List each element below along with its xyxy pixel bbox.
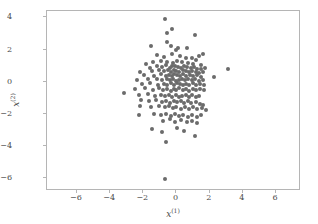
data-point bbox=[175, 126, 179, 130]
x-tick-label: 6 bbox=[273, 193, 278, 202]
data-point bbox=[157, 86, 161, 90]
data-point bbox=[151, 88, 155, 92]
y-tick-mark bbox=[43, 81, 46, 82]
data-point bbox=[201, 52, 205, 56]
data-point bbox=[186, 115, 190, 119]
data-point bbox=[148, 81, 152, 85]
data-point bbox=[185, 120, 189, 124]
y-axis-label-superscript: (2) bbox=[9, 93, 16, 102]
scatter-plot-figure: −6−4−20246−6−4−2024 x(1) x(2) bbox=[0, 0, 318, 224]
data-point bbox=[199, 113, 203, 117]
data-point bbox=[195, 107, 199, 111]
data-point bbox=[201, 78, 205, 82]
data-point bbox=[194, 58, 198, 62]
data-point bbox=[197, 54, 201, 58]
data-point bbox=[122, 91, 126, 95]
data-point bbox=[144, 62, 148, 66]
data-point bbox=[197, 94, 201, 98]
data-point bbox=[159, 113, 163, 117]
data-point bbox=[137, 93, 141, 97]
data-point bbox=[202, 83, 206, 87]
data-point bbox=[179, 107, 183, 111]
data-point bbox=[162, 55, 166, 59]
data-point bbox=[179, 118, 183, 122]
data-point bbox=[143, 86, 147, 90]
data-point bbox=[204, 108, 208, 112]
data-point bbox=[169, 44, 173, 48]
data-point bbox=[154, 98, 158, 102]
data-point bbox=[146, 92, 150, 96]
y-tick-label: 0 bbox=[7, 76, 12, 85]
y-tick-mark bbox=[43, 16, 46, 17]
data-point bbox=[193, 134, 197, 138]
data-point bbox=[194, 100, 198, 104]
data-point bbox=[160, 130, 164, 134]
data-point bbox=[163, 17, 167, 21]
x-tick-label: 2 bbox=[206, 193, 211, 202]
data-point bbox=[155, 77, 159, 81]
data-point bbox=[142, 73, 146, 77]
data-point bbox=[155, 53, 159, 57]
data-point bbox=[190, 119, 194, 123]
data-point bbox=[135, 78, 139, 82]
data-point bbox=[201, 70, 205, 74]
x-axis-label-superscript: (1) bbox=[171, 207, 180, 214]
y-axis-label: x(2) bbox=[9, 93, 21, 107]
data-point bbox=[174, 105, 178, 109]
x-tick-label: −2 bbox=[136, 193, 148, 202]
data-point bbox=[195, 121, 199, 125]
data-point bbox=[138, 104, 142, 108]
data-point bbox=[133, 87, 137, 91]
y-tick-label: 2 bbox=[7, 44, 12, 53]
data-point bbox=[202, 88, 206, 92]
data-point bbox=[157, 104, 161, 108]
data-point bbox=[165, 40, 169, 44]
data-point bbox=[151, 60, 155, 64]
data-point bbox=[184, 56, 188, 60]
data-point bbox=[173, 120, 177, 124]
data-point bbox=[226, 67, 230, 71]
data-point bbox=[168, 117, 172, 121]
x-tick-label: 4 bbox=[239, 193, 244, 202]
y-tick-label: −4 bbox=[0, 141, 12, 150]
y-tick-mark bbox=[43, 177, 46, 178]
data-point bbox=[182, 129, 186, 133]
data-point bbox=[161, 119, 165, 123]
y-tick-mark bbox=[43, 113, 46, 114]
data-point bbox=[190, 113, 194, 117]
data-point bbox=[212, 75, 216, 79]
data-point bbox=[163, 105, 167, 109]
y-tick-label: 4 bbox=[7, 12, 12, 21]
data-point bbox=[181, 113, 185, 117]
data-point bbox=[170, 27, 174, 31]
data-point bbox=[174, 48, 178, 52]
data-point bbox=[178, 54, 182, 58]
data-point bbox=[150, 127, 154, 131]
data-point bbox=[149, 105, 153, 109]
data-point bbox=[150, 69, 154, 73]
x-tick-label: −6 bbox=[70, 193, 82, 202]
data-point bbox=[170, 52, 174, 56]
x-tick-label: 0 bbox=[173, 193, 178, 202]
data-point bbox=[159, 59, 163, 63]
data-point bbox=[152, 112, 156, 116]
plot-area bbox=[46, 10, 300, 190]
data-point bbox=[147, 99, 151, 103]
data-point bbox=[185, 46, 189, 50]
data-point bbox=[149, 44, 153, 48]
y-tick-label: −6 bbox=[0, 173, 12, 182]
x-axis-label: x(1) bbox=[166, 207, 180, 219]
y-tick-mark bbox=[43, 145, 46, 146]
data-point bbox=[137, 113, 141, 117]
y-tick-mark bbox=[43, 49, 46, 50]
data-point bbox=[175, 59, 179, 63]
x-tick-label: −4 bbox=[103, 193, 115, 202]
data-point bbox=[193, 33, 197, 37]
y-axis-label-base: x bbox=[11, 102, 21, 107]
data-point bbox=[163, 177, 167, 181]
data-point bbox=[139, 98, 143, 102]
data-point bbox=[164, 112, 168, 116]
data-point bbox=[164, 140, 168, 144]
data-point bbox=[165, 31, 169, 35]
y-tick-label: −2 bbox=[0, 108, 12, 117]
